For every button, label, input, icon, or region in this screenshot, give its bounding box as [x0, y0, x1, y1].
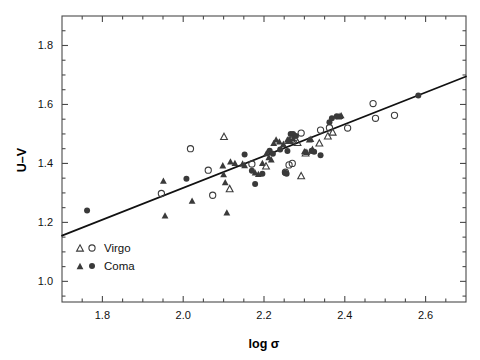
point-filled-triangle	[219, 162, 226, 168]
point-open-triangle	[316, 140, 323, 146]
point-open-circle	[187, 146, 193, 152]
y-axis-title: U–V	[15, 147, 29, 172]
legend-label-coma: Coma	[104, 260, 135, 272]
x-tick-label: 1.8	[95, 309, 110, 321]
point-open-circle	[317, 127, 323, 133]
x-tick-label: 2.4	[337, 309, 352, 321]
point-filled-circle	[249, 168, 255, 174]
point-filled-circle	[415, 93, 421, 99]
point-filled-circle	[252, 181, 258, 187]
y-tick-label: 1.4	[38, 157, 53, 169]
y-tick-label: 1.6	[38, 98, 53, 110]
point-open-circle	[372, 115, 378, 121]
legend: VirgoComa	[77, 242, 136, 272]
point-open-circle	[370, 100, 376, 106]
legend-label-virgo: Virgo	[104, 242, 131, 254]
point-filled-circle	[293, 133, 299, 139]
point-filled-triangle	[162, 212, 169, 218]
point-filled-circle	[284, 148, 290, 154]
x-tick-label: 2.2	[256, 309, 271, 321]
point-open-circle	[298, 130, 304, 136]
point-open-circle	[249, 161, 255, 167]
y-tick-label: 1.0	[38, 275, 53, 287]
point-open-circle	[205, 167, 211, 173]
point-filled-circle	[284, 171, 290, 177]
series-filled-circle	[84, 93, 421, 214]
point-filled-circle	[270, 151, 276, 157]
data-points	[84, 93, 421, 219]
x-axis-tick-labels: 1.82.02.22.42.6	[95, 309, 433, 321]
point-open-circle	[391, 112, 397, 118]
point-filled-circle	[277, 147, 283, 153]
series-open-triangle	[221, 129, 336, 192]
point-open-triangle	[298, 172, 305, 178]
legend-marker-filled-triangle	[77, 263, 84, 269]
x-tick-label: 2.6	[418, 309, 433, 321]
x-axis-title: log σ	[249, 337, 280, 351]
point-filled-triangle	[222, 179, 229, 185]
point-filled-circle	[334, 113, 340, 119]
y-tick-label: 1.8	[38, 39, 53, 51]
point-filled-triangle	[189, 197, 196, 203]
point-filled-circle	[242, 152, 248, 158]
point-filled-circle	[311, 149, 317, 155]
chart-figure: 1.82.02.22.42.6 1.01.21.41.61.8 VirgoCom…	[0, 0, 480, 360]
point-open-circle	[210, 192, 216, 198]
point-filled-triangle	[160, 177, 167, 183]
legend-marker-open-triangle	[77, 245, 84, 251]
legend-marker-filled-circle	[89, 263, 95, 269]
point-filled-triangle	[223, 209, 230, 215]
point-filled-circle	[183, 176, 189, 182]
point-open-triangle	[226, 185, 233, 191]
point-open-triangle	[221, 133, 228, 139]
point-open-circle	[345, 125, 351, 131]
y-axis-tick-labels: 1.01.21.41.61.8	[38, 39, 53, 287]
point-filled-circle	[318, 152, 324, 158]
point-filled-circle	[259, 171, 265, 177]
point-filled-circle	[84, 208, 90, 214]
x-tick-label: 2.0	[176, 309, 191, 321]
x-axis-ticks	[82, 16, 446, 302]
series-filled-triangle	[160, 112, 345, 219]
y-tick-label: 1.2	[38, 216, 53, 228]
scatter-plot: 1.82.02.22.42.6 1.01.21.41.61.8 VirgoCom…	[0, 0, 480, 360]
point-filled-triangle	[259, 160, 266, 166]
legend-marker-open-circle	[89, 245, 95, 251]
